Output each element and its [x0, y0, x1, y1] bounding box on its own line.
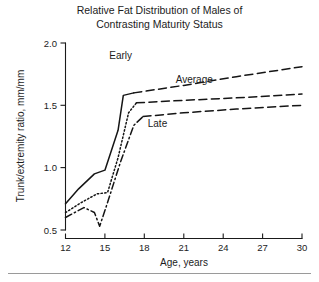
- chart-plot-area: 2.0 1.5 1.0 0.5 Trunk/extremity ratio, m…: [0, 0, 319, 282]
- y-tick-label-1-0: 1.0: [44, 162, 57, 173]
- y-axis: 2.0 1.5 1.0 0.5 Trunk/extremity ratio, m…: [15, 38, 66, 236]
- series-line-average-extrapolated: [136, 94, 302, 103]
- y-axis-title: Trunk/extremity ratio, mm/mm: [15, 70, 26, 202]
- y-tick-label-2-0: 2.0: [44, 38, 57, 49]
- series-label-early: Early: [109, 50, 132, 61]
- x-axis: 12 15 18 21 24 27 30 Age, years: [60, 234, 307, 269]
- x-tick-label-30: 30: [297, 242, 308, 253]
- x-tick-label-12: 12: [60, 242, 71, 253]
- series-line-early-extrapolated: [134, 67, 302, 93]
- x-tick-label-15: 15: [100, 242, 111, 253]
- y-tick-label-1-5: 1.5: [44, 100, 57, 111]
- series-label-late: Late: [148, 118, 168, 129]
- x-axis-title: Age, years: [160, 257, 208, 268]
- x-tick-label-27: 27: [257, 242, 268, 253]
- x-tick-label-21: 21: [179, 242, 190, 253]
- series-line-early: [66, 93, 134, 204]
- y-tick-label-0-5: 0.5: [44, 225, 57, 236]
- series-line-average: [66, 103, 137, 213]
- chart-figure: Relative Fat Distribution of Males of Co…: [0, 0, 319, 282]
- series-line-late: [66, 117, 144, 227]
- x-tick-label-18: 18: [139, 242, 150, 253]
- series-line-late-extrapolated: [143, 105, 302, 116]
- footer-divider: [8, 273, 311, 274]
- series-label-average: Average: [176, 74, 214, 85]
- series-group: [66, 67, 303, 227]
- x-tick-label-24: 24: [218, 242, 229, 253]
